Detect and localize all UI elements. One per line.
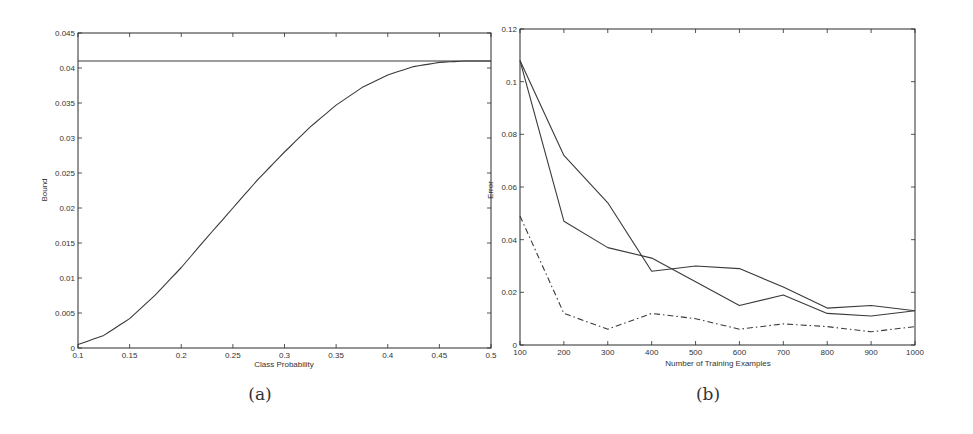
y-tick-label: 0.005 — [55, 309, 76, 318]
x-tick-label: 200 — [557, 348, 571, 357]
x-tick-label: 0.15 — [122, 351, 138, 360]
chart-a-x-axis: 0.10.150.20.250.30.350.40.450.5 — [72, 33, 497, 360]
x-tick-label: 0.2 — [176, 351, 188, 360]
y-tick-label: 0.12 — [501, 25, 517, 34]
y-tick-label: 0.025 — [55, 169, 76, 178]
series-line-dash-dot-series — [520, 216, 915, 332]
x-tick-label: 0.25 — [225, 351, 241, 360]
chart-a-plot-frame — [78, 33, 491, 348]
figure: 00.0050.010.0150.020.0250.030.0350.040.0… — [0, 0, 973, 434]
y-tick-label: 0.06 — [501, 183, 517, 192]
y-tick-label: 0.01 — [59, 274, 75, 283]
chart-b-series — [520, 61, 915, 332]
x-tick-label: 0.5 — [485, 351, 497, 360]
y-tick-label: 0.015 — [55, 239, 76, 248]
chart-a-y-axis: 00.0050.010.0150.020.0250.030.0350.040.0… — [55, 29, 491, 353]
chart-a-series — [78, 61, 491, 345]
x-tick-label: 300 — [601, 348, 615, 357]
x-tick-label: 400 — [645, 348, 659, 357]
x-tick-label: 1000 — [906, 348, 924, 357]
chart-a-x-axis-label: Class Probability — [254, 360, 314, 369]
series-line-solid-series-1 — [520, 61, 915, 316]
series-line-solid-series-2 — [520, 61, 915, 311]
chart-b-x-axis-label: Number of Training Examples — [665, 359, 770, 368]
x-tick-label: 900 — [864, 348, 878, 357]
chart-b-plot-frame — [520, 29, 915, 345]
y-tick-label: 0.035 — [55, 99, 76, 108]
series-line-bound-curve — [78, 61, 491, 345]
chart-b: 00.020.040.060.080.10.12 100200300400500… — [486, 25, 924, 404]
y-tick-label: 0.04 — [59, 64, 75, 73]
x-tick-label: 0.1 — [72, 351, 84, 360]
y-tick-label: 0.02 — [501, 288, 517, 297]
x-tick-label: 0.4 — [382, 351, 394, 360]
y-tick-label: 0.08 — [501, 130, 517, 139]
chart-b-x-axis: 1002003004005006007008009001000 — [513, 29, 924, 357]
x-tick-label: 100 — [513, 348, 527, 357]
y-tick-label: 0.1 — [506, 78, 518, 87]
x-tick-label: 800 — [821, 348, 835, 357]
chart-b-y-axis: 00.020.040.060.080.10.12 — [501, 25, 915, 350]
chart-a: 00.0050.010.0150.020.0250.030.0350.040.0… — [40, 29, 497, 404]
y-tick-label: 0.03 — [59, 134, 75, 143]
y-tick-label: 0.02 — [59, 204, 75, 213]
x-tick-label: 0.35 — [328, 351, 344, 360]
x-tick-label: 600 — [733, 348, 747, 357]
chart-b-y-axis-label: Error — [486, 181, 495, 199]
chart-a-y-axis-label: Bound — [40, 178, 49, 201]
chart-b-caption: (b) — [696, 384, 720, 404]
y-tick-label: 0.04 — [501, 236, 517, 245]
x-tick-label: 0.3 — [279, 351, 291, 360]
x-tick-label: 0.45 — [432, 351, 448, 360]
x-tick-label: 700 — [777, 348, 791, 357]
y-tick-label: 0.045 — [55, 29, 76, 38]
x-tick-label: 500 — [689, 348, 703, 357]
chart-a-caption: (a) — [248, 384, 271, 404]
